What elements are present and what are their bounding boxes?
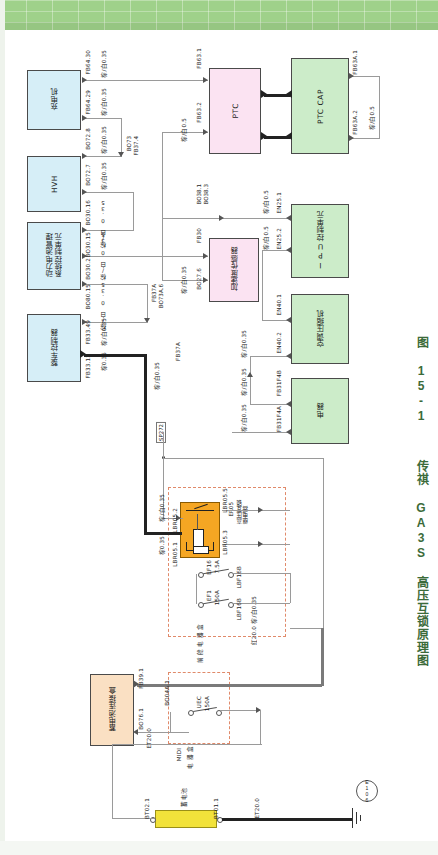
ground-reference-circle: E106: [356, 780, 378, 802]
spec-20: 棕0.35: [158, 536, 166, 555]
ground-bar-1: [352, 808, 353, 828]
battery-label: 蓄电池: [180, 788, 188, 807]
fuse-uec-rating: 150A: [204, 696, 210, 711]
front-fuse-box-label: 前 舱 电 器 盒: [196, 624, 204, 663]
spec-14: 棕/白0.5: [262, 190, 270, 214]
block-ipu-label: IPU控制单元: [316, 212, 325, 270]
block-acceleration-sensor: 加速度传感器: [209, 238, 259, 302]
book-page: 图 15-1 传祺 GA3S 高压互锁原理图 充电机 HVH 动力电池管理 系统…: [0, 0, 438, 855]
conn-fb63-2: FB63.2: [196, 102, 202, 123]
ground-bar-2: [356, 812, 357, 824]
conn-bt02-1: BT02.1: [144, 798, 150, 819]
spec-6: 棕/白 0.35: [100, 232, 106, 280]
conn-et20-0: ET20.0: [146, 728, 152, 749]
arrow-relay-out-1: [258, 507, 263, 513]
wire-ptccap-loop-right: [379, 76, 380, 138]
fuse-ef1-rating: 150A: [214, 590, 220, 605]
block-ptc: PTC: [209, 68, 261, 154]
figure-title: 传祺 GA3S 高压互锁原理图: [414, 460, 428, 667]
circuit-diagram: 充电机 HVH 动力电池管理 系统控制单元 整车控制器 PTC 加速度传感器 P…: [0, 32, 400, 832]
conn-fb37a-2: FB37A: [175, 342, 181, 361]
battery-symbol: [155, 810, 217, 828]
relay-resistor: [193, 546, 209, 554]
arrow-fb30-mid: [219, 215, 224, 221]
wire-battbox-in-bot: [137, 732, 189, 733]
arrow-ptc-in-1: [203, 77, 208, 83]
wire-fuse-bus-to-right: [290, 628, 324, 629]
wire-sensor-feedback-v: [162, 132, 163, 280]
wire-bo04a-v: [170, 712, 171, 732]
spec-8: 棕/白0.35: [100, 318, 108, 346]
fuse-uec-designator: UEC: [196, 696, 202, 708]
conn-bo04a-1: BO04A.1: [164, 680, 170, 706]
arrow-charger-out-1: [82, 77, 87, 83]
wire-uec-out: [220, 710, 260, 711]
relay-coil-bottom-l: [186, 542, 187, 551]
conn-lbf16b-1: LBF16B: [236, 566, 242, 588]
relay-coil-bottom-r: [213, 542, 214, 551]
midi-fuse-box-label: 电 器 盒: [186, 746, 194, 769]
page-header-band: [0, 0, 438, 30]
wire-uec-down: [260, 710, 261, 744]
relay-coil: [193, 529, 204, 547]
wire-fb30-run: [162, 218, 290, 219]
midi-fuse-box-tag: MIDI: [176, 748, 182, 761]
arrow-ptccap-in-1: [286, 90, 292, 98]
wire-fuse-out-bus: [290, 573, 291, 603]
conn-fb33-49: FB33.49: [85, 320, 91, 344]
arrow-battbox-in-bot: [133, 729, 138, 735]
wire-vcu-in-1: [84, 322, 148, 323]
wire-ipu-comp-bus: [262, 250, 263, 320]
arrow-relay-out-2: [258, 541, 263, 547]
wire-charger-out-2: [84, 118, 122, 119]
conn-en40-2: EN40.2: [276, 332, 282, 353]
conn-bo73a-6: BO73A.6: [158, 284, 164, 308]
block-charger: 充电机: [27, 70, 81, 130]
wire-charger-drop: [121, 118, 122, 156]
spec-16: 棕/白0.35: [240, 330, 248, 358]
conn-bo73: BO73: [126, 136, 132, 151]
conn-fb63a-2: FB63A.2: [352, 110, 358, 135]
wire-to-hvh-node: [84, 156, 122, 157]
conn-bo38-1: FB30: [196, 228, 202, 243]
arrow-comp-in-1: [286, 317, 291, 323]
block-compressor-label: 空调压缩机: [316, 311, 325, 348]
wire-comp-relay-bus: [250, 356, 251, 404]
conn-bo27-6: BO38.3: [203, 184, 209, 205]
block-acceleration-sensor-label: 加速度传感器: [230, 248, 239, 292]
conn-lbf16b-2: LBF16B: [236, 598, 242, 620]
conn-et20-0b: ET20.0: [254, 798, 260, 819]
conn-fb37-4: FB37.4: [133, 136, 139, 156]
block-battery-connection-box: 蓄电池连接盒: [90, 674, 134, 746]
figure-caption-text: 图 15-1 传祺 GA3S 高压互锁原理图: [413, 336, 430, 667]
block-vcu-label: 整车控制器: [50, 330, 59, 367]
arrow-sensor-in-2: [203, 277, 208, 283]
block-relay-unit-label: 电器: [316, 404, 325, 419]
conn-fb63a-1: FB63A.1: [352, 50, 358, 75]
spec-18: 棕/白0.35: [240, 404, 248, 432]
spec-12: 棕/白0.5: [368, 106, 376, 130]
fuse-ef16-designator: EF16: [206, 560, 212, 575]
block-bms-label: 动力电池管理 系统控制单元: [45, 234, 63, 278]
wire-hvh-out-2: [84, 192, 134, 193]
spec-9: 棕0.35: [100, 352, 108, 371]
conn-en25-2: EN25.2: [276, 228, 282, 249]
block-compressor: 空调压缩机: [291, 294, 349, 364]
relay-name: 高压互锁 继电器: [236, 500, 249, 524]
wire-uec-to-batt: [112, 744, 262, 745]
spec-3: 棕/白0.35: [100, 126, 108, 154]
conn-fb63-1: FB63.1: [196, 48, 202, 69]
arrow-ptc-out-1: [261, 90, 267, 98]
arrow-hvh-out-1: [82, 153, 87, 159]
conn-lbr05-3: LBR05.3: [222, 530, 228, 555]
block-relay-unit: 电器: [291, 378, 349, 444]
wire-ptccap-loop-top: [352, 76, 380, 77]
arrow-charger-out-2: [82, 115, 87, 121]
wire-bms-in-1: [84, 230, 134, 231]
spec-19: 棕/白0.35: [158, 494, 166, 522]
arrow-comp-in-2: [286, 353, 291, 359]
conn-fb33-12: FB33.12: [85, 354, 91, 378]
fuse-ef16-rating: 7.5A: [214, 560, 220, 574]
block-vcu: 整车控制器: [27, 314, 81, 382]
arrow-ipu-in-2: [286, 247, 291, 253]
